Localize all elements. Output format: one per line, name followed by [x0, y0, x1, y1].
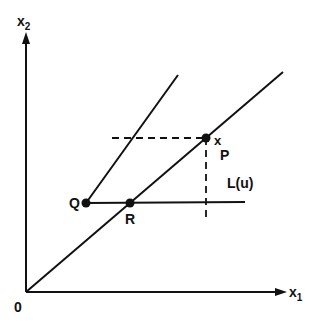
point-p — [202, 134, 211, 143]
x2-axis-label: x2 — [17, 14, 30, 28]
x2-axis-arrow-icon — [22, 32, 30, 44]
point-r — [126, 199, 135, 208]
lu-annotation: L(u) — [227, 176, 253, 190]
ray-from-q — [86, 75, 178, 203]
origin-label: 0 — [14, 300, 22, 314]
x1-axis-label: x1 — [289, 285, 302, 299]
point-r-label: R — [125, 212, 135, 226]
diagram-canvas — [0, 0, 313, 325]
point-q-label: Q — [69, 196, 80, 210]
x1-axis-arrow-icon — [275, 288, 287, 296]
point-p-marker: x — [214, 134, 221, 147]
point-p-label: P — [220, 148, 229, 162]
point-q — [82, 199, 91, 208]
horizontal-line-qr — [86, 202, 245, 203]
